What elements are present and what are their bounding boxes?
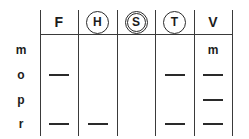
column-header-letter: S — [132, 16, 140, 28]
dash-mark — [165, 123, 185, 125]
cell-o-t — [155, 65, 194, 85]
cell-o-v — [194, 65, 232, 85]
cell-m-s — [117, 40, 155, 60]
column-header-f: F — [40, 10, 78, 34]
dash-mark — [165, 74, 185, 76]
dash-mark — [88, 123, 108, 125]
cell-p-v — [194, 90, 232, 110]
column-header-s: S — [117, 10, 155, 34]
row-label-o: o — [8, 69, 34, 81]
cell-p-f — [40, 90, 78, 110]
cell-r-v — [194, 114, 232, 134]
cell-r-s — [117, 114, 155, 134]
cell-o-h — [78, 65, 117, 85]
column-header-letter: V — [208, 15, 218, 29]
row-label-p: p — [8, 94, 34, 106]
column-header-letter: H — [93, 16, 102, 28]
circled-letter-t-icon: T — [163, 11, 186, 34]
cell-m-t — [155, 40, 194, 60]
cell-r-t — [155, 114, 194, 134]
cell-o-s — [117, 65, 155, 85]
grid-table-figure: FHSTV mopr m — [0, 0, 249, 139]
grid-header-rule — [40, 34, 232, 35]
cell-m-f — [40, 40, 78, 60]
grid-vertical-rule-5 — [232, 10, 233, 136]
cell-p-s — [117, 90, 155, 110]
cell-text: m — [208, 44, 219, 56]
cell-p-t — [155, 90, 194, 110]
cell-p-h — [78, 90, 117, 110]
dash-mark — [203, 74, 223, 76]
circled-letter-h-icon: H — [86, 11, 109, 34]
column-header-v: V — [194, 10, 232, 34]
circled-letter-s-icon: S — [125, 11, 148, 34]
cell-m-h — [78, 40, 117, 60]
row-label-r: r — [8, 118, 34, 130]
column-header-h: H — [78, 10, 117, 34]
dash-mark — [203, 123, 223, 125]
cell-r-f — [40, 114, 78, 134]
dash-mark — [49, 74, 69, 76]
dash-mark — [203, 99, 223, 101]
column-header-t: T — [155, 10, 194, 34]
column-header-letter: T — [171, 16, 179, 28]
cell-m-v: m — [194, 40, 232, 60]
dash-mark — [49, 123, 69, 125]
row-label-m: m — [8, 44, 34, 56]
cell-o-f — [40, 65, 78, 85]
cell-r-h — [78, 114, 117, 134]
column-header-letter: F — [55, 15, 64, 29]
